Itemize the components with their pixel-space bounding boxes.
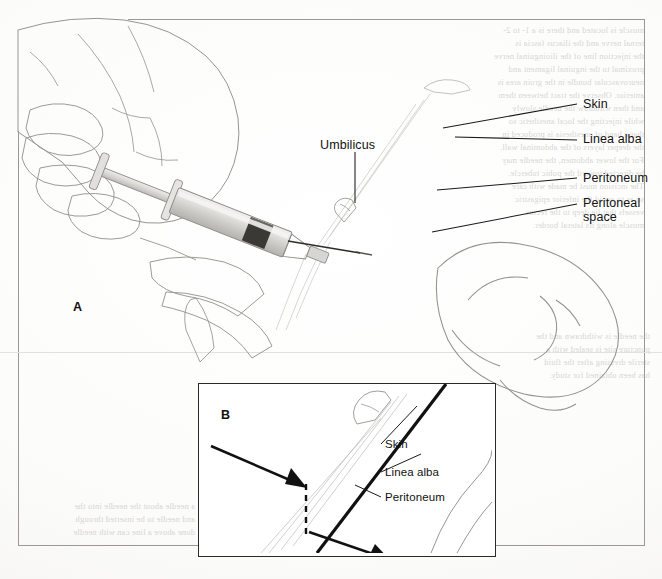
syringe-plunger-rod [100,167,174,203]
panel-a-letter: A [73,300,82,314]
abdominal-wall-layer [272,92,452,352]
label-peritoneum: Peritoneum [583,171,648,185]
label-peritoneal-space-line2: space [583,210,617,224]
finger-middle [22,133,101,186]
linea-alba-layer [298,92,458,330]
leader-skin [443,104,577,128]
label-umbilicus: Umbilicus [320,138,375,152]
panel-b-inset: B Skin Linea alba Peritoneum [198,383,496,557]
label-linea-alba: Linea alba [583,132,642,146]
skin-layer [262,86,452,356]
label-skin: Skin [583,97,608,111]
umbilicus-bump [334,198,356,222]
syringe [88,150,334,280]
peritoneum-layer [306,89,470,320]
leader-peritoneal-space [432,204,577,232]
finger-index [26,104,103,156]
panel-b-label-peritoneum: Peritoneum [385,490,445,504]
syringe-hub [307,246,330,264]
panel-b-label-linea-alba: Linea alba [385,465,439,479]
panel-b-label-skin: Skin [385,437,408,451]
leader-peritoneum [437,178,577,190]
abdominal-wall-tip [424,80,470,94]
thumb-lower-fold [162,292,272,358]
panel-b-arrow-upper [211,446,307,488]
label-peritoneal-space-line1: Peritoneal [583,196,640,210]
panel-b-letter: B [221,408,230,422]
thumb-shadow-wedge [182,332,214,366]
panel-b-illustration [199,384,492,553]
hand-tendon-lines [30,26,178,166]
thumb-tip-wedge [185,298,214,362]
scanned-page: muscle is located and there is a 1- to 2… [0,0,662,579]
panel-a-leader-lines [355,104,577,232]
leader-linea-alba [455,137,577,140]
panel-b-umbilicus-crease [361,404,379,412]
